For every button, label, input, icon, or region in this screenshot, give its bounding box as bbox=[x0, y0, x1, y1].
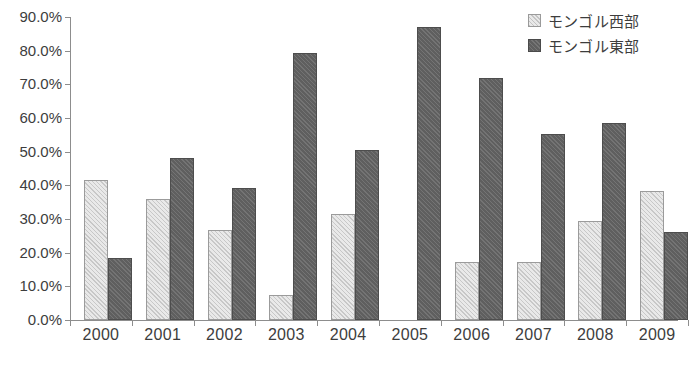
x-axis-category-label: 2004 bbox=[313, 326, 383, 344]
bar-2001-east bbox=[170, 158, 194, 320]
y-axis-tick-label: 90.0% bbox=[0, 8, 62, 25]
y-axis-tick-label: 50.0% bbox=[0, 143, 62, 160]
bar-2009-west bbox=[640, 191, 664, 320]
y-axis-tick-label: 40.0% bbox=[0, 176, 62, 193]
x-axis-category-label: 2003 bbox=[251, 326, 321, 344]
bar-2001-west bbox=[146, 199, 170, 320]
bar-2003-west bbox=[269, 295, 293, 320]
x-axis-category-label: 2005 bbox=[375, 326, 445, 344]
y-axis-line bbox=[70, 17, 71, 320]
y-axis-tick-label: 10.0% bbox=[0, 277, 62, 294]
plot-area bbox=[70, 17, 678, 320]
bar-2008-east bbox=[602, 123, 626, 320]
x-axis-line bbox=[70, 320, 678, 321]
bar-2008-west bbox=[578, 221, 602, 320]
y-axis-tick bbox=[65, 118, 70, 119]
y-axis-tick-label: 80.0% bbox=[0, 42, 62, 59]
y-axis-tick bbox=[65, 152, 70, 153]
y-axis-tick bbox=[65, 219, 70, 220]
x-axis-category-label: 2002 bbox=[190, 326, 260, 344]
y-axis-tick bbox=[65, 84, 70, 85]
bar-2002-east bbox=[232, 188, 256, 320]
bar-chart: モンゴル西部 モンゴル東部 0.0%10.0%20.0%30.0%40.0%50… bbox=[0, 0, 690, 369]
y-axis-tick bbox=[65, 253, 70, 254]
bar-2005-east bbox=[417, 27, 441, 320]
x-axis-category-label: 2006 bbox=[437, 326, 507, 344]
bar-2000-west bbox=[84, 180, 108, 320]
y-axis-tick bbox=[65, 286, 70, 287]
y-axis-tick-label: 30.0% bbox=[0, 210, 62, 227]
bar-2003-east bbox=[293, 53, 317, 320]
bar-2004-west bbox=[331, 214, 355, 320]
y-axis-tick bbox=[65, 51, 70, 52]
bar-2000-east bbox=[108, 258, 132, 320]
y-axis-tick-label: 0.0% bbox=[0, 311, 62, 328]
bar-2007-east bbox=[541, 134, 565, 320]
bar-2004-east bbox=[355, 150, 379, 320]
x-axis-category-label: 2008 bbox=[560, 326, 630, 344]
y-axis-tick-label: 20.0% bbox=[0, 244, 62, 261]
y-axis-tick-label: 70.0% bbox=[0, 75, 62, 92]
bar-2002-west bbox=[208, 230, 232, 320]
x-axis-category-label: 2007 bbox=[499, 326, 569, 344]
bar-2009-east bbox=[664, 232, 688, 320]
y-axis-tick bbox=[65, 185, 70, 186]
bar-2006-west bbox=[455, 262, 479, 320]
y-axis-tick bbox=[65, 17, 70, 18]
bar-2007-west bbox=[517, 262, 541, 320]
x-axis-category-label: 2001 bbox=[128, 326, 198, 344]
bar-2006-east bbox=[479, 78, 503, 320]
x-axis-category-label: 2009 bbox=[622, 326, 690, 344]
y-axis-tick-label: 60.0% bbox=[0, 109, 62, 126]
x-axis-category-label: 2000 bbox=[66, 326, 136, 344]
